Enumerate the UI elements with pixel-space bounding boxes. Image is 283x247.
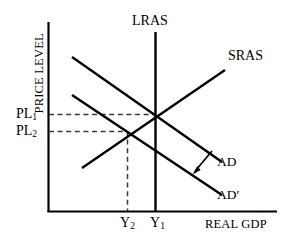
pl1-tick-label: PL1 bbox=[16, 107, 37, 123]
ad-shift-arrow-icon bbox=[193, 151, 213, 175]
ad-curve-label: AD bbox=[217, 155, 237, 169]
pl2-tick-label-subscript: 2 bbox=[32, 129, 37, 139]
ad-as-diagram: PRICE LEVEL REAL GDP LRAS SRAS AD AD′ PL… bbox=[0, 0, 283, 247]
pl1-tick-label-subscript: 1 bbox=[32, 112, 37, 122]
y1-tick-label: Y1 bbox=[150, 216, 165, 232]
y1-tick-label-subscript: 1 bbox=[160, 221, 165, 231]
lras-curve-label: LRAS bbox=[132, 14, 168, 28]
sras-curve-label: SRAS bbox=[228, 49, 263, 63]
y-axis-title: PRICE LEVEL bbox=[33, 33, 46, 113]
x-axis-title: REAL GDP bbox=[205, 218, 267, 231]
y2-tick-label-subscript: 2 bbox=[130, 221, 135, 231]
y1-tick-label-text: Y bbox=[150, 215, 160, 230]
y2-tick-label-text: Y bbox=[120, 215, 130, 230]
pl2-tick-label: PL2 bbox=[16, 124, 37, 140]
pl1-tick-label-text: PL bbox=[16, 106, 32, 121]
sras-curve bbox=[82, 70, 225, 168]
y2-tick-label: Y2 bbox=[120, 216, 135, 232]
pl2-tick-label-text: PL bbox=[16, 123, 32, 138]
ad-prime-curve-label: AD′ bbox=[217, 188, 239, 202]
